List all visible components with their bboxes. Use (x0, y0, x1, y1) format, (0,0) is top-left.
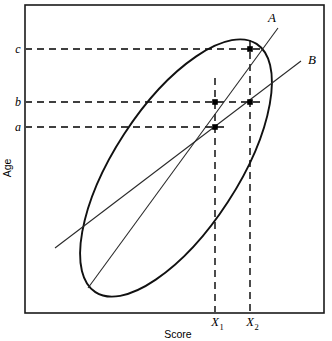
marked-point-a-x2-c (247, 46, 253, 52)
x-axis-title: Score (164, 328, 192, 340)
plot-frame (25, 5, 324, 313)
line-label-a: A (267, 10, 276, 25)
y-tick-label-b: b (15, 95, 21, 109)
x-tick-label-x1: X 1 (210, 315, 223, 332)
x-tick-label-x1-sub: 1 (219, 322, 223, 332)
regression-line-b (55, 61, 301, 248)
x-tick-label-x2: X 2 (245, 315, 258, 332)
figure-container: A B c b a X 1 X 2 Score Age (0, 0, 332, 341)
line-label-b: B (308, 52, 316, 67)
y-axis-title: Age (1, 159, 13, 178)
marked-point-b-x1-a (212, 124, 218, 130)
marked-point-b-x2-b (247, 99, 253, 105)
x-tick-label-x2-sub: 2 (254, 322, 258, 332)
scatter-diagram: A B c b a X 1 X 2 Score Age (0, 0, 332, 341)
y-tick-label-a: a (15, 120, 21, 134)
y-tick-label-c: c (15, 42, 21, 56)
marked-point-a-x1-b (212, 99, 218, 105)
